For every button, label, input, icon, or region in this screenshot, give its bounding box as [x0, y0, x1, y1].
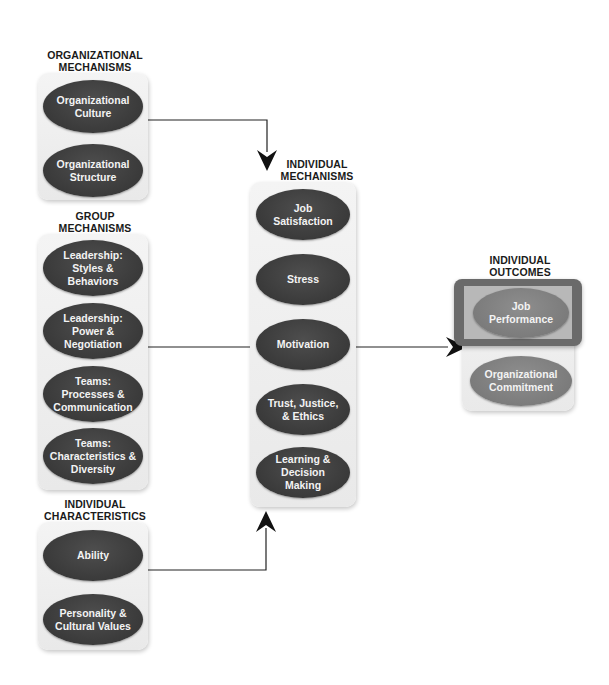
node-teams-processes[interactable]: Teams: Processes & Communication — [43, 366, 143, 422]
node-leadership-styles[interactable]: Leadership: Styles & Behaviors — [43, 240, 143, 296]
node-label: Teams: Processes & Communication — [47, 375, 138, 414]
individual-characteristics-title: INDIVIDUAL CHARACTERISTICS — [30, 498, 160, 522]
node-label: Job Satisfaction — [267, 202, 339, 228]
organizational-mechanisms-title: ORGANIZATIONAL MECHANISMS — [30, 49, 160, 73]
node-label: Stress — [281, 273, 325, 286]
node-label: Trust, Justice, & Ethics — [262, 397, 345, 423]
node-label: Motivation — [271, 338, 336, 351]
node-trust-justice-ethics[interactable]: Trust, Justice, & Ethics — [256, 384, 350, 435]
node-personality-cultural-values[interactable]: Personality & Cultural Values — [43, 594, 143, 645]
node-organizational-structure[interactable]: Organizational Structure — [43, 144, 143, 197]
title-line: OUTCOMES — [470, 266, 570, 278]
node-motivation[interactable]: Motivation — [256, 319, 350, 370]
node-label: Leadership: Styles & Behaviors — [57, 249, 129, 288]
arrow-org-to-individual — [148, 120, 267, 152]
node-job-performance[interactable]: Job Performance — [473, 288, 569, 338]
node-label: Ability — [71, 549, 115, 562]
node-label: Organizational Structure — [51, 158, 136, 184]
arrow-characteristics-to-individual — [148, 528, 266, 570]
node-label: Leadership: Power & Negotiation — [57, 312, 129, 351]
group-mechanisms-title: GROUP MECHANISMS — [30, 210, 160, 234]
title-line: MECHANISMS — [30, 61, 160, 73]
title-line: ORGANIZATIONAL — [30, 49, 160, 61]
individual-mechanisms-title: INDIVIDUAL MECHANISMS — [272, 158, 362, 182]
node-label: Organizational Commitment — [479, 368, 564, 394]
title-line: CHARACTERISTICS — [30, 510, 160, 522]
node-teams-characteristics[interactable]: Teams: Characteristics & Diversity — [43, 428, 143, 484]
node-label: Learning & Decision Making — [256, 453, 350, 492]
node-stress[interactable]: Stress — [256, 254, 350, 305]
title-line: INDIVIDUAL — [30, 498, 160, 510]
node-ability[interactable]: Ability — [43, 530, 143, 581]
node-organizational-commitment[interactable]: Organizational Commitment — [470, 356, 572, 406]
title-line: INDIVIDUAL — [272, 158, 362, 170]
node-label: Teams: Characteristics & Diversity — [44, 437, 142, 476]
node-label: Job Performance — [483, 300, 559, 326]
node-job-satisfaction[interactable]: Job Satisfaction — [256, 189, 350, 240]
title-line: GROUP — [30, 210, 160, 222]
node-label: Personality & Cultural Values — [49, 607, 137, 633]
node-learning-decision-making[interactable]: Learning & Decision Making — [256, 447, 350, 498]
title-line: INDIVIDUAL — [470, 254, 570, 266]
individual-outcomes-title: INDIVIDUAL OUTCOMES — [470, 254, 570, 278]
node-leadership-power[interactable]: Leadership: Power & Negotiation — [43, 303, 143, 359]
title-line: MECHANISMS — [272, 170, 362, 182]
title-line: MECHANISMS — [30, 222, 160, 234]
node-organizational-culture[interactable]: Organizational Culture — [43, 80, 143, 133]
node-label: Organizational Culture — [51, 94, 136, 120]
